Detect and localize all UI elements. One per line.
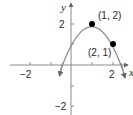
y-axis-label: y [60, 1, 66, 13]
y-tick-label-2: 2 [59, 19, 65, 30]
parabola-graph: y x −2 2 2 −2 (1, 2) (2, 1) [0, 0, 133, 115]
vertex-label: (1, 2) [98, 10, 121, 21]
y-tick-label-neg2: −2 [55, 101, 67, 112]
x-tick-label-2: 2 [109, 69, 115, 80]
x-axis-label: x [128, 66, 133, 78]
vertex-point [89, 21, 95, 27]
point-2-1-label: (2, 1) [88, 47, 111, 58]
x-tick-label-neg2: −2 [20, 69, 32, 80]
